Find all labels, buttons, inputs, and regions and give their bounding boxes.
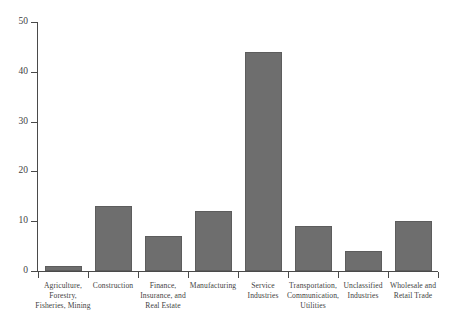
x-axis-category-label-line: Real Estate — [124, 301, 202, 311]
y-axis-tick-label: 0 — [6, 266, 28, 276]
x-axis-tick — [288, 272, 289, 278]
x-axis-labels: Agriculture,Forestry,Fisheries, MiningCo… — [38, 281, 438, 329]
y-axis-tick — [31, 22, 37, 23]
x-axis-tick — [338, 272, 339, 278]
x-axis-category-label-line: Forestry, — [24, 291, 102, 301]
y-axis-tick-label: 50 — [6, 17, 28, 27]
bar — [345, 251, 382, 271]
x-axis-category-label-line: Insurance, and — [124, 291, 202, 301]
bar — [395, 221, 432, 271]
x-axis-tick — [438, 272, 439, 278]
x-axis-category-label-line: Fisheries, Mining — [24, 301, 102, 311]
y-axis-tick-label: 20 — [6, 166, 28, 176]
y-axis-tick — [31, 171, 37, 172]
x-axis-category-label: Wholesale andRetail Trade — [374, 281, 452, 301]
bar — [195, 211, 232, 271]
y-axis-tick — [31, 221, 37, 222]
x-axis-tick — [188, 272, 189, 278]
x-axis-tick — [388, 272, 389, 278]
y-axis-tick-label: 10 — [6, 216, 28, 226]
bars-layer — [38, 22, 438, 271]
bar — [245, 52, 282, 271]
y-axis-tick-label: 40 — [6, 67, 28, 77]
bar — [295, 226, 332, 271]
y-axis-tick — [31, 72, 37, 73]
x-axis-tick — [88, 272, 89, 278]
y-axis-tick — [31, 271, 37, 272]
x-axis-tick — [238, 272, 239, 278]
bar-chart: 01020304050 Agriculture,Forestry,Fisheri… — [0, 0, 454, 331]
x-axis-category-label-line: Utilities — [274, 301, 352, 311]
y-axis-tick-label: 30 — [6, 117, 28, 127]
bar — [145, 236, 182, 271]
bar — [95, 206, 132, 271]
bar — [45, 266, 82, 271]
x-axis-category-label-line: Wholesale and — [374, 281, 452, 291]
y-axis-tick — [31, 122, 37, 123]
x-axis-tick — [38, 272, 39, 278]
x-axis-tick — [138, 272, 139, 278]
x-axis-category-label-line: Retail Trade — [374, 291, 452, 301]
